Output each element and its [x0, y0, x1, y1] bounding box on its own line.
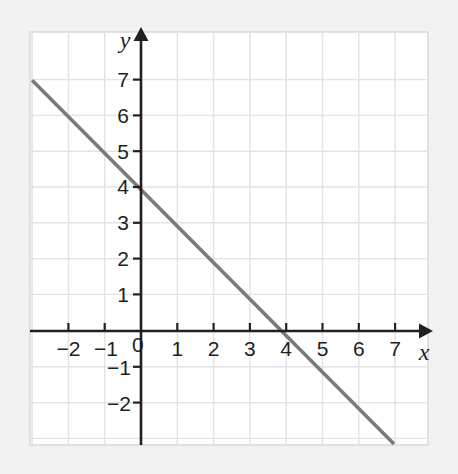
x-tick-label: 2 — [208, 337, 220, 360]
x-tick-label: 7 — [389, 337, 401, 360]
x-tick-label: 6 — [353, 337, 365, 360]
x-tick-label: 5 — [317, 337, 329, 360]
y-tick-label: 3 — [117, 211, 129, 234]
y-tick-label: −1 — [107, 356, 131, 379]
plot-area-background — [30, 32, 428, 445]
y-tick-label: 5 — [117, 140, 129, 163]
origin-label: 0 — [132, 333, 144, 356]
y-tick-label: −2 — [107, 392, 131, 415]
y-tick-label: 7 — [117, 68, 129, 91]
x-tick-label: 3 — [244, 337, 256, 360]
y-tick-label: 2 — [117, 247, 129, 270]
x-tick-label: 1 — [171, 337, 183, 360]
y-axis-label: y — [118, 27, 131, 53]
x-axis-label: x — [418, 339, 430, 365]
y-tick-label: 1 — [117, 283, 129, 306]
y-tick-label: 6 — [117, 104, 129, 127]
x-tick-label: −2 — [56, 337, 80, 360]
graph-root: −2 −1 1 2 3 4 5 6 7 7 6 5 4 3 2 1 −1 −2 … — [0, 0, 458, 474]
coordinate-plane-figure: −2 −1 1 2 3 4 5 6 7 7 6 5 4 3 2 1 −1 −2 … — [0, 0, 458, 474]
y-tick-label: 4 — [117, 175, 129, 198]
x-tick-label: 4 — [280, 337, 292, 360]
